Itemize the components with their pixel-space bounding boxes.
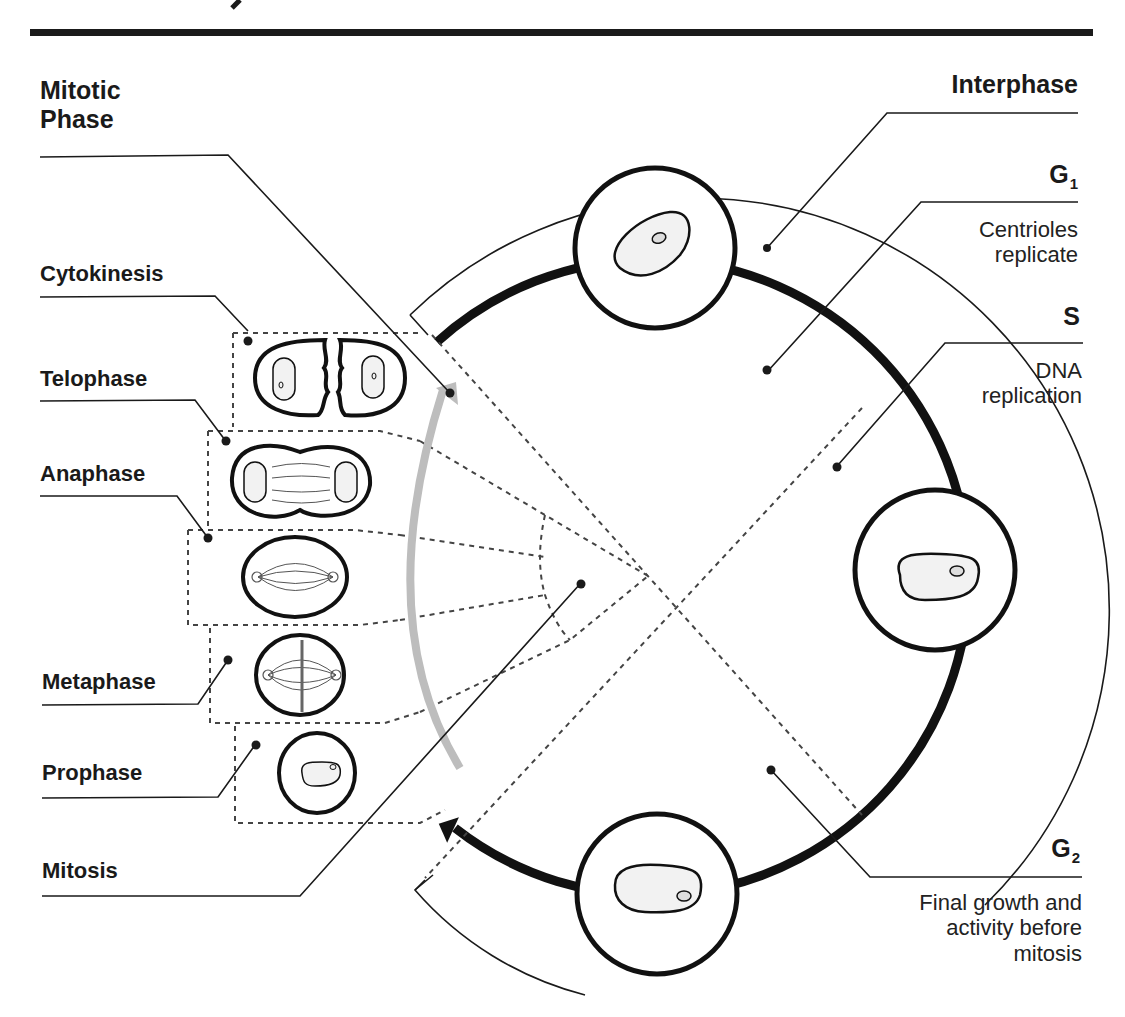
mitotic-phase-label: Mitotic Phase	[40, 76, 121, 134]
g1-subscript: 1	[1070, 175, 1078, 192]
stage-label-telophase: Telophase	[40, 366, 147, 391]
g1-desc-line-2: replicate	[979, 242, 1078, 267]
mitotic-phase-line-1: Mitotic	[40, 76, 121, 105]
s-cell	[855, 490, 1015, 650]
g1-label: G1	[1049, 160, 1078, 192]
cytokinesis-cell	[255, 340, 405, 416]
anaphase-cell	[243, 537, 347, 617]
s-desc-line-2: replication	[982, 383, 1082, 408]
interphase-label: Interphase	[952, 70, 1078, 99]
mitotic-phase-line-2: Phase	[40, 105, 121, 134]
g2-desc-line-1: Final growth and	[919, 890, 1082, 915]
g2-label: G2	[1051, 834, 1080, 866]
g2-letter: G	[1051, 834, 1070, 862]
g2-desc-line-2: activity before	[919, 915, 1082, 940]
title-descender	[232, 0, 240, 8]
g2-cell	[577, 814, 737, 974]
header-rule	[30, 29, 1093, 36]
g1-cell	[575, 168, 735, 328]
prophase-cell	[279, 733, 355, 813]
s-label: S	[1063, 302, 1080, 331]
stage-label-anaphase: Anaphase	[40, 461, 145, 486]
stage-label-cytokinesis: Cytokinesis	[40, 261, 164, 286]
g1-letter: G	[1049, 160, 1068, 188]
mitosis-label: Mitosis	[42, 858, 118, 883]
stage-label-metaphase: Metaphase	[42, 669, 156, 694]
s-desc-line-1: DNA	[982, 358, 1082, 383]
g2-desc-line-3: mitosis	[919, 941, 1082, 966]
telophase-cell	[232, 446, 370, 517]
g2-subscript: 2	[1072, 849, 1080, 866]
s-description: DNA replication	[982, 358, 1082, 409]
metaphase-cell	[256, 635, 344, 715]
g1-desc-line-1: Centrioles	[979, 217, 1078, 242]
g2-description: Final growth and activity before mitosis	[919, 890, 1082, 966]
stage-label-prophase: Prophase	[42, 760, 142, 785]
cell-cycle-diagram	[0, 0, 1125, 1017]
mitosis-gray-arrow	[410, 390, 460, 768]
g1-description: Centrioles replicate	[979, 217, 1078, 268]
